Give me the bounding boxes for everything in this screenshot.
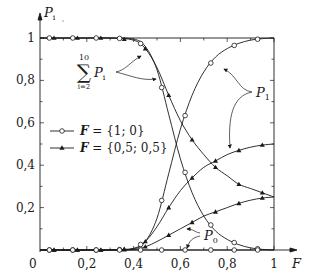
origin-label: 0 [29,257,37,271]
axes [38,13,297,252]
y-axis-arrow-icon [38,13,42,20]
circle-marker-icon [232,240,237,245]
legend-item-triangle: F = {0,5; 0,5} [50,141,168,155]
circle-marker-icon [183,170,188,175]
legend: F = {1; 0} F = {0,5; 0,5} [50,124,168,155]
triangle-marker-icon [166,93,171,97]
svg-text:0,6: 0,6 [16,116,35,130]
circle-marker-icon [209,248,214,253]
circle-marker-icon [209,61,214,66]
circle-marker-icon [60,129,65,134]
triangle-marker-icon [213,158,218,162]
svg-text:F = {1; 0}: F = {1; 0} [79,124,145,138]
circle-marker-icon [159,85,164,90]
svg-text:0,2: 0,2 [77,257,96,271]
svg-text:0,4: 0,4 [16,158,35,172]
circle-marker-icon [232,43,237,48]
svg-text:F = {0,5; 0,5}: F = {0,5; 0,5} [79,141,168,155]
circle-marker-icon [117,248,122,253]
series-line-3 [40,38,274,197]
series-line-4 [40,144,274,250]
circle-marker-icon [138,41,143,46]
circle-marker-icon [47,36,52,41]
circle-marker-icon [138,248,143,253]
svg-text:P1: P1 [255,85,270,102]
svg-text:Pi: Pi [93,65,106,82]
svg-text:i=2: i=2 [78,83,91,91]
svg-text:∑: ∑ [77,60,92,84]
triangle-marker-icon [166,233,171,237]
circle-marker-icon [255,37,260,42]
circle-marker-icon [138,242,143,247]
p0-annotation: P0 [187,228,218,248]
circle-marker-icon [183,113,188,118]
triangle-marker-icon [236,182,241,186]
x-axis-arrow-icon [290,248,297,252]
svg-text:Pi: Pi [43,5,56,22]
circle-marker-icon [47,248,52,253]
svg-text:1: 1 [270,257,278,271]
circle-marker-icon [70,248,75,253]
circle-marker-icon [117,36,122,41]
svg-text:1: 1 [27,31,35,45]
svg-text:0,8: 0,8 [218,257,237,271]
circle-marker-icon [159,248,164,253]
circle-marker-icon [209,223,214,228]
svg-text:0,4: 0,4 [124,257,143,271]
probability-chart: Pi F 0 0,2 0,4 0,6 0,8 1 1 0,8 0,6 0,4 0… [0,0,320,276]
circle-marker-icon [70,36,75,41]
x-tick-labels: 0,2 0,4 0,6 0,8 1 [77,257,278,271]
svg-text:0,2: 0,2 [16,201,35,215]
circle-marker-icon [183,248,188,253]
triangle-marker-icon [190,220,195,224]
x-axis-title: F [291,256,302,271]
y-axis-title: Pi [43,5,64,22]
circle-marker-icon [255,248,260,253]
p1-annotation: P1 [224,69,270,148]
sum-annotation: 10 ∑ i=2 Pi [77,53,156,91]
circle-marker-icon [94,36,99,41]
legend-item-circle: F = {1; 0} [50,124,145,138]
svg-text:0,6: 0,6 [171,257,190,271]
svg-text:0,8: 0,8 [16,73,35,87]
y-tick-labels: 1 0,8 0,6 0,4 0,2 [16,31,35,215]
circle-marker-icon [94,248,99,253]
circle-marker-icon [159,198,164,203]
circle-marker-icon [232,248,237,253]
